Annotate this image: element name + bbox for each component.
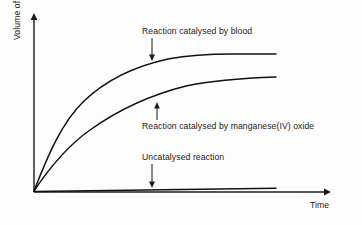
y-axis-arrowhead	[31, 13, 38, 20]
uncatalysed-annotation-arrow-icon	[149, 164, 155, 188]
manganese-curve	[34, 77, 276, 191]
x-axis-arrowhead	[324, 189, 331, 196]
blood-annotation-arrow-icon	[149, 38, 155, 61]
manganese-annotation-arrow-icon	[154, 102, 160, 120]
uncatalysed-curve-label: Uncatalysed reaction	[142, 152, 224, 162]
chart-screenshot: Reaction catalysed by blood Reaction cat…	[0, 0, 362, 225]
manganese-curve-label: Reaction catalysed by manganese(IV) oxid…	[142, 121, 314, 131]
y-axis	[31, 13, 38, 192]
blood-curve-label: Reaction catalysed by blood	[142, 26, 252, 36]
uncatalysed-curve	[34, 188, 276, 191]
x-axis-label: Time	[310, 200, 329, 210]
y-axis-label: Volume of oxygen	[12, 0, 22, 40]
